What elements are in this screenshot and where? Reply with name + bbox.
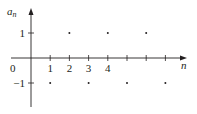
data-point (88, 82, 90, 84)
data-point (145, 32, 147, 34)
x-tick-label: 3 (86, 62, 92, 74)
y-axis-arrow-icon (29, 8, 34, 15)
data-point (68, 32, 70, 34)
data-point (49, 82, 51, 84)
x-tick-label: 1 (47, 62, 53, 74)
origin-label: 0 (10, 62, 16, 74)
x-axis-label: n (181, 59, 187, 71)
y-tick-label: 1 (20, 27, 26, 39)
data-point (107, 32, 109, 34)
y-axis-label: an (7, 5, 17, 19)
y-tick-label: −1 (13, 77, 25, 89)
x-tick-label: 4 (105, 62, 111, 74)
x-tick-label: 2 (67, 62, 73, 74)
sequence-plot: 1234 1−1 an n 0 (0, 0, 197, 114)
data-point (164, 82, 166, 84)
data-point (126, 82, 128, 84)
